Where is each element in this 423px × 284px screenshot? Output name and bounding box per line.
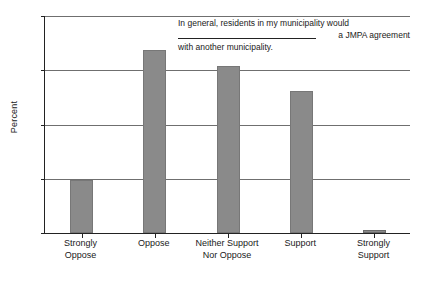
question-line-2: a JMPA agreement (338, 30, 410, 40)
y-axis-label: Percent (9, 100, 19, 132)
x-axis-label-2: Neither Support Nor Oppose (190, 238, 263, 261)
bar-1 (143, 50, 166, 233)
y-axis-label-container: Percent (6, 0, 22, 233)
x-axis-label-0: Strongly Oppose (44, 238, 117, 261)
bar-chart-figure: Percent 010203040 Strongly OpposeOpposeN… (0, 0, 423, 284)
bar-2 (217, 66, 240, 233)
question-line-2-wrap: a JMPA agreement (178, 29, 410, 41)
x-axis-label-1: Oppose (117, 238, 190, 250)
bar-0 (70, 180, 93, 233)
question-line-3: with another municipality. (178, 41, 410, 53)
x-axis-tick-labels: Strongly OpposeOpposeNeither Support Nor… (44, 238, 410, 278)
chart-question-text: In general, residents in my municipality… (178, 17, 410, 53)
bar-3 (290, 91, 313, 233)
fill-in-blank-rule (178, 38, 316, 39)
x-axis-label-3: Support (264, 238, 337, 250)
question-line-1: In general, residents in my municipality… (178, 17, 410, 29)
y-tick-mark-0 (41, 233, 45, 234)
x-axis-label-4: Strongly Support (337, 238, 410, 261)
